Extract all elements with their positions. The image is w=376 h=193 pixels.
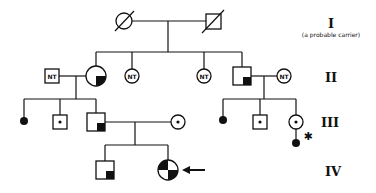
carrier-quadrant-icon	[96, 76, 106, 86]
generation-label-iii: III	[321, 115, 339, 130]
nt-label: NT	[199, 73, 209, 80]
dot-icon	[176, 120, 179, 123]
affected-small-female	[219, 116, 227, 124]
quadrant-icon	[158, 160, 168, 170]
generation-label-ii: II	[325, 70, 337, 85]
proband-arrow-icon	[182, 166, 205, 174]
carrier-quadrant-icon	[106, 171, 114, 179]
generation-i	[115, 10, 224, 52]
affected-small-female	[292, 139, 300, 147]
quadrant-icon	[168, 170, 178, 180]
affected-small-female	[20, 117, 28, 125]
carrier-quadrant-icon	[97, 123, 105, 131]
generation-ii: NT NT NT NT	[45, 66, 291, 99]
generation-label-iv: IV	[325, 164, 342, 179]
nt-label: NT	[279, 73, 289, 80]
nt-label: NT	[127, 73, 137, 80]
generation-iii: ✱	[20, 113, 313, 147]
nt-label: NT	[47, 73, 57, 80]
asterisk-icon: ✱	[303, 130, 312, 143]
dot-icon	[258, 120, 261, 123]
generation-label-i: I	[328, 16, 334, 31]
generation-iv	[96, 160, 205, 180]
generation-note: (a probable carrier)	[302, 31, 360, 39]
pedigree-chart: NT NT NT NT	[0, 0, 376, 193]
dot-icon	[58, 120, 61, 123]
carrier-quadrant-icon	[243, 77, 251, 85]
dot-icon	[294, 120, 297, 123]
